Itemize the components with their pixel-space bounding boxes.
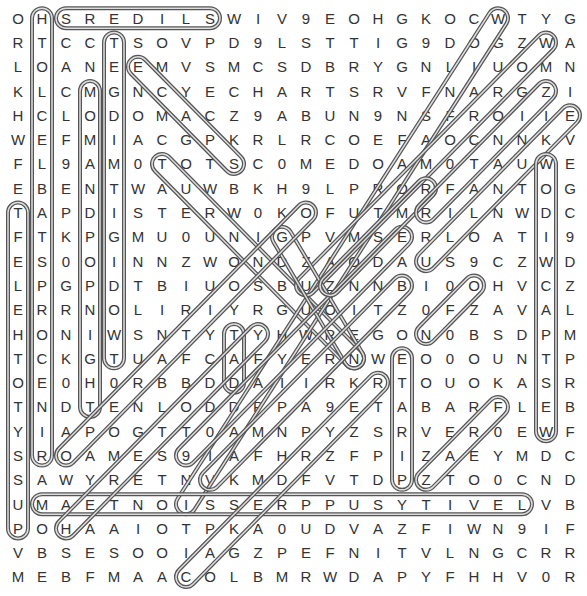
grid-cell[interactable]: S [150,443,174,467]
grid-cell[interactable]: C [246,55,270,79]
grid-cell[interactable]: P [78,419,102,443]
grid-cell[interactable]: A [222,346,246,370]
grid-cell[interactable]: C [54,79,78,103]
grid-cell[interactable]: I [366,541,390,565]
grid-cell[interactable]: T [510,225,534,249]
grid-cell[interactable]: O [78,249,102,273]
grid-cell[interactable]: R [414,200,438,224]
grid-cell[interactable]: B [270,273,294,297]
grid-cell[interactable]: I [438,492,462,516]
grid-cell[interactable]: R [294,565,318,589]
grid-cell[interactable]: G [390,6,414,30]
grid-cell[interactable]: E [102,55,126,79]
grid-cell[interactable]: D [534,443,558,467]
grid-cell[interactable]: 0 [126,152,150,176]
grid-cell[interactable]: O [30,322,54,346]
grid-cell[interactable]: V [318,468,342,492]
grid-cell[interactable]: U [294,516,318,540]
grid-cell[interactable]: I [342,298,366,322]
grid-cell[interactable]: A [534,298,558,322]
grid-cell[interactable]: 9 [318,395,342,419]
grid-cell[interactable]: A [126,565,150,589]
grid-cell[interactable]: N [126,395,150,419]
grid-cell[interactable]: O [54,443,78,467]
grid-cell[interactable]: M [150,103,174,127]
grid-cell[interactable]: K [54,225,78,249]
grid-cell[interactable]: S [198,6,222,30]
grid-cell[interactable]: M [30,492,54,516]
grid-cell[interactable]: I [102,200,126,224]
grid-cell[interactable]: C [486,249,510,273]
grid-cell[interactable]: L [54,103,78,127]
grid-cell[interactable]: L [510,492,534,516]
grid-cell[interactable]: N [486,127,510,151]
grid-cell[interactable]: D [102,103,126,127]
grid-cell[interactable]: W [198,249,222,273]
grid-cell[interactable]: M [150,55,174,79]
grid-cell[interactable]: E [486,492,510,516]
grid-cell[interactable]: A [222,419,246,443]
grid-cell[interactable]: M [102,152,126,176]
grid-cell[interactable]: I [78,322,102,346]
grid-cell[interactable]: D [102,273,126,297]
grid-cell[interactable]: P [270,395,294,419]
grid-cell[interactable]: W [102,322,126,346]
grid-cell[interactable]: P [558,346,582,370]
grid-cell[interactable]: S [126,30,150,54]
grid-cell[interactable]: Y [270,346,294,370]
grid-cell[interactable]: N [126,492,150,516]
grid-cell[interactable]: S [366,419,390,443]
grid-cell[interactable]: T [510,176,534,200]
grid-cell[interactable]: F [6,225,30,249]
grid-cell[interactable]: R [366,370,390,394]
grid-cell[interactable]: S [270,55,294,79]
grid-cell[interactable]: I [174,541,198,565]
grid-cell[interactable]: M [558,322,582,346]
grid-cell[interactable]: W [294,322,318,346]
grid-cell[interactable]: O [438,127,462,151]
grid-cell[interactable]: H [30,6,54,30]
grid-cell[interactable]: G [102,79,126,103]
grid-cell[interactable]: I [246,225,270,249]
grid-cell[interactable]: D [222,370,246,394]
grid-cell[interactable]: 9 [462,249,486,273]
grid-cell[interactable]: E [30,127,54,151]
grid-cell[interactable]: C [462,127,486,151]
grid-cell[interactable]: B [414,395,438,419]
grid-cell[interactable]: P [54,200,78,224]
grid-cell[interactable]: K [270,200,294,224]
grid-cell[interactable]: B [222,176,246,200]
grid-cell[interactable]: O [150,492,174,516]
grid-cell[interactable]: O [462,346,486,370]
grid-cell[interactable]: E [318,152,342,176]
grid-cell[interactable]: U [318,103,342,127]
grid-cell[interactable]: Y [78,468,102,492]
grid-cell[interactable]: G [78,346,102,370]
grid-cell[interactable]: T [198,152,222,176]
grid-cell[interactable]: C [198,346,222,370]
grid-cell[interactable]: P [198,30,222,54]
grid-cell[interactable]: L [318,176,342,200]
grid-cell[interactable]: O [390,176,414,200]
grid-cell[interactable]: Z [390,516,414,540]
grid-cell[interactable]: Z [222,103,246,127]
grid-cell[interactable]: Y [174,79,198,103]
grid-cell[interactable]: G [366,322,390,346]
grid-cell[interactable]: Y [246,322,270,346]
grid-cell[interactable]: G [510,79,534,103]
grid-cell[interactable]: U [150,225,174,249]
grid-cell[interactable]: B [558,492,582,516]
grid-cell[interactable]: T [174,419,198,443]
grid-cell[interactable]: D [438,30,462,54]
grid-cell[interactable]: T [30,225,54,249]
grid-cell[interactable]: O [294,200,318,224]
grid-cell[interactable]: N [342,541,366,565]
grid-cell[interactable]: T [462,152,486,176]
grid-cell[interactable]: O [78,103,102,127]
grid-cell[interactable]: I [174,492,198,516]
grid-cell[interactable]: B [558,395,582,419]
grid-cell[interactable]: A [366,516,390,540]
grid-cell[interactable]: C [30,103,54,127]
grid-cell[interactable]: O [462,225,486,249]
grid-cell[interactable]: N [150,322,174,346]
